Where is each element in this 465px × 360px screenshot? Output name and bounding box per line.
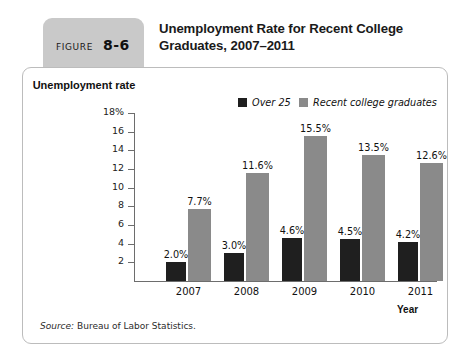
bar-value-label: 7.7% bbox=[180, 196, 220, 207]
bar-over-25-2008 bbox=[224, 253, 244, 281]
x-tick-label-2009: 2009 bbox=[282, 286, 328, 297]
bar-value-label: 11.6% bbox=[238, 160, 278, 171]
x-tick-label-2011: 2011 bbox=[398, 286, 444, 297]
bar-recent-grads-2008 bbox=[246, 173, 269, 281]
bar-recent-grads-2009 bbox=[304, 136, 327, 281]
bar-recent-grads-2010 bbox=[362, 155, 385, 281]
bar-over-25-2010 bbox=[340, 239, 360, 281]
x-tick-label-2010: 2010 bbox=[340, 286, 386, 297]
x-tick-label-2007: 2007 bbox=[166, 286, 212, 297]
chart-container: Unemployment rate Over 25 Recent college… bbox=[22, 67, 448, 344]
figure-label: FIGURE bbox=[56, 42, 93, 52]
bar-value-label: 13.5% bbox=[354, 142, 394, 153]
bar-value-label: 12.6% bbox=[412, 150, 452, 161]
x-tick-label-2008: 2008 bbox=[224, 286, 270, 297]
bar-value-label: 15.5% bbox=[296, 123, 336, 134]
figure-tab: FIGURE 8-6 bbox=[43, 18, 144, 70]
bar-recent-grads-2007 bbox=[188, 209, 211, 281]
source-prefix: Source: bbox=[40, 321, 74, 331]
source-note: Source: Bureau of Labor Statistics. bbox=[40, 321, 196, 331]
bar-recent-grads-2011 bbox=[420, 163, 443, 281]
bar-over-25-2007 bbox=[166, 262, 186, 281]
figure-number: 8-6 bbox=[103, 37, 130, 53]
x-axis-title: Year bbox=[397, 304, 418, 315]
figure-title: Unemployment Rate for Recent College Gra… bbox=[159, 21, 429, 54]
bar-over-25-2011 bbox=[398, 242, 418, 281]
bar-series-group: 2.0%7.7%3.0%11.6%4.6%15.5%4.5%13.5%4.2%1… bbox=[23, 68, 449, 345]
source-text: Bureau of Labor Statistics. bbox=[77, 321, 196, 331]
bar-over-25-2009 bbox=[282, 238, 302, 281]
chart-plot-area: Unemployment rate Over 25 Recent college… bbox=[23, 68, 449, 345]
